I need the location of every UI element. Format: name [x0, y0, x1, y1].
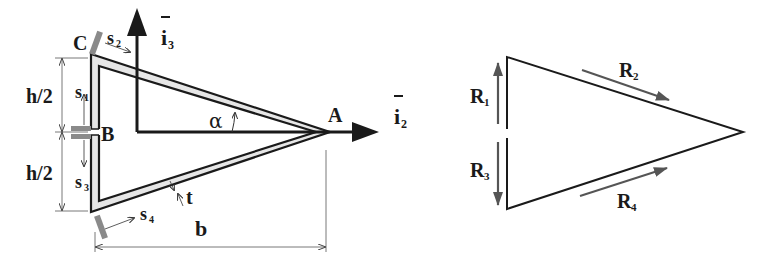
cut-marker-B-top	[71, 126, 91, 131]
point-label-A: A	[328, 104, 343, 126]
svg-text:R: R	[617, 190, 632, 212]
axis-i2	[137, 122, 379, 142]
axis-i3-label: i 3	[161, 17, 174, 52]
s2-label: s 2	[107, 28, 121, 49]
angle-label-alpha: α	[209, 109, 223, 133]
cut-marker-B-bottom	[71, 134, 91, 139]
svg-text:i: i	[161, 25, 167, 50]
svg-text:R: R	[619, 59, 634, 81]
cut-marker-D	[94, 215, 108, 240]
s4-label: s 4	[140, 204, 154, 225]
R2-label: R 2	[619, 59, 639, 82]
svg-text:4: 4	[149, 214, 154, 225]
point-label-C: C	[73, 32, 87, 54]
svg-text:1: 1	[484, 96, 490, 108]
svg-text:3: 3	[168, 38, 174, 52]
point-label-B: B	[101, 123, 114, 145]
svg-text:2: 2	[633, 70, 639, 82]
dimension-label-h-half-bottom: h/2	[26, 162, 53, 184]
s4-arrow	[105, 218, 134, 229]
svg-text:s: s	[75, 82, 82, 102]
svg-text:s: s	[75, 172, 82, 192]
svg-text:3: 3	[484, 170, 490, 182]
axis-i3-arrowhead	[127, 8, 147, 36]
axis-i2-label: i 2	[394, 96, 407, 131]
axis-i2-arrowhead	[352, 122, 379, 142]
svg-text:R: R	[470, 159, 485, 181]
svg-text:R: R	[470, 85, 485, 107]
diagram-canvas: C B A i 3 i 2 α t b h/2 h/2 s 1 s 2 s 3 …	[0, 0, 774, 267]
svg-text:i: i	[394, 104, 400, 129]
R4-label: R 4	[617, 190, 637, 213]
dimension-label-h-half-top: h/2	[26, 85, 53, 107]
s1-label: s 1	[75, 82, 89, 103]
svg-text:2: 2	[401, 117, 407, 131]
angle-alpha-arc	[232, 113, 235, 132]
s3-label: s 3	[75, 172, 89, 193]
thickness-indicator	[170, 181, 183, 206]
svg-text:s: s	[140, 204, 147, 224]
svg-text:2: 2	[116, 38, 121, 49]
svg-text:s: s	[107, 28, 114, 48]
dimension-label-b: b	[195, 216, 207, 241]
R1-label: R 1	[470, 85, 490, 108]
svg-text:4: 4	[631, 201, 637, 213]
svg-text:1: 1	[84, 92, 89, 103]
svg-text:3: 3	[84, 182, 89, 193]
cut-marker-C	[89, 31, 103, 56]
thickness-label-t: t	[186, 186, 193, 208]
R3-label: R 3	[470, 159, 490, 182]
